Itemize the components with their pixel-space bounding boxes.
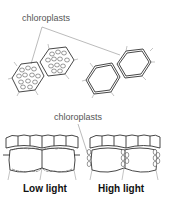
chloroplast-diagram: chloroplasts chloroplasts Low light High… <box>0 0 171 204</box>
bottom-chloroplasts-label: chloroplasts <box>54 112 102 122</box>
top-chloroplasts-label: chloroplasts <box>22 13 70 23</box>
cross-section-low-light <box>3 135 80 180</box>
surface-view-high-light <box>82 46 155 98</box>
cross-section-high-light <box>87 135 160 180</box>
high-light-caption: High light <box>98 183 144 194</box>
top-leader-lines <box>31 27 120 64</box>
surface-view-low-light <box>8 44 78 96</box>
bottom-leader-line <box>78 124 88 155</box>
low-light-caption: Low light <box>23 183 67 194</box>
